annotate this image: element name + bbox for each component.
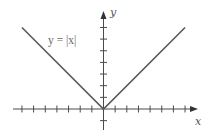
y-axis-arrowhead: [101, 11, 107, 19]
axes: [13, 11, 198, 130]
function-label: y = |x|: [48, 34, 76, 47]
y-axis-label: y: [109, 6, 117, 19]
x-axis-arrowhead: [190, 106, 198, 112]
plot-area: x y y = |x|: [0, 0, 210, 139]
x-axis-label: x: [195, 115, 202, 128]
